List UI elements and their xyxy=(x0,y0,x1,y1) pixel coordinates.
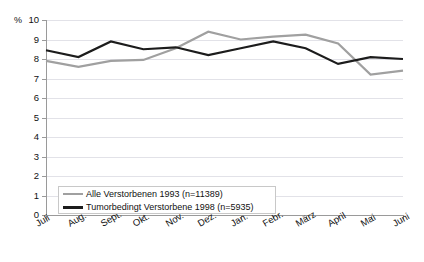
x-tick-label: März xyxy=(294,209,317,228)
legend-item-alle-verstorbene-1993: Alle Verstorbenen 1993 (n=11389) xyxy=(63,188,223,200)
legend-swatch-icon xyxy=(63,206,83,209)
chart-legend: Alle Verstorbenen 1993 (n=11389) Tumorbe… xyxy=(58,186,276,214)
legend-swatch-icon xyxy=(63,193,83,196)
x-tick-label: Juli xyxy=(34,213,51,229)
x-tick-label: Juni xyxy=(391,211,411,228)
x-axis-tick-labels: JuliAug.Sept.Okt.Nov.Dez.Jan.Febr.MärzAp… xyxy=(0,0,424,262)
x-tick-label: April xyxy=(326,210,347,228)
legend-item-tumorbedingt-verstorbene-1998: Tumorbedingt Verstorbene 1998 (n=5935) xyxy=(63,201,254,213)
line-chart: % 012345678910 JuliAug.Sept.Okt.Nov.Dez.… xyxy=(0,0,424,262)
legend-label: Alle Verstorbenen 1993 (n=11389) xyxy=(86,189,223,199)
x-tick-label: Mai xyxy=(359,212,377,228)
legend-label: Tumorbedingt Verstorbene 1998 (n=5935) xyxy=(86,202,254,212)
